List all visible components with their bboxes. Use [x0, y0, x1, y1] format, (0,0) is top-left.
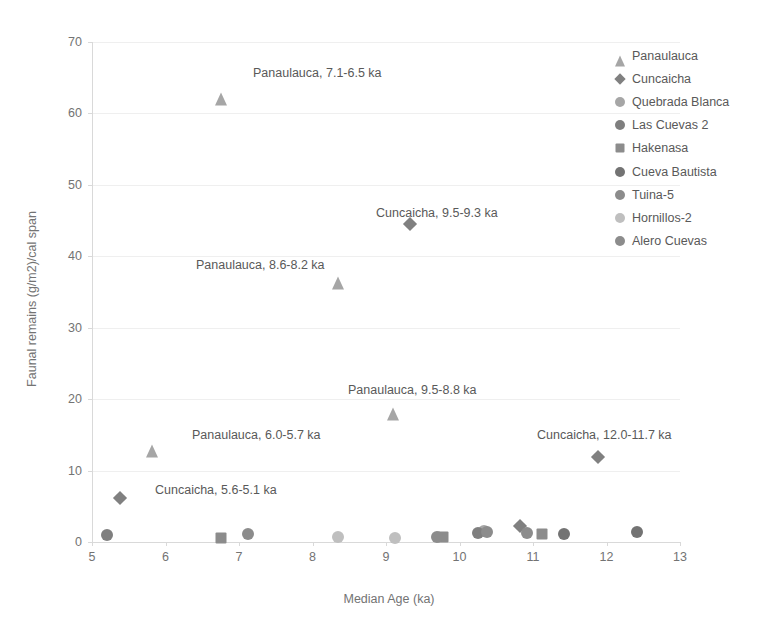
legend-item[interactable]: Las Cuevas 2 [612, 114, 778, 137]
legend-item-label: Cueva Bautista [632, 165, 717, 179]
legend-swatch [612, 71, 628, 87]
legend-swatch [612, 94, 628, 110]
data-point [113, 491, 127, 505]
y-tick-label: 10 [42, 464, 82, 478]
legend-swatch [612, 117, 628, 133]
x-tick-label: 11 [513, 550, 553, 564]
data-point [521, 527, 533, 539]
data-label: Panaulauca, 7.1-6.5 ka [253, 66, 382, 80]
data-point [631, 526, 643, 538]
marker-diamond [614, 73, 625, 84]
data-point [101, 529, 113, 541]
x-tick-label: 7 [219, 550, 259, 564]
marker-circle [615, 190, 625, 200]
data-point [332, 531, 344, 543]
x-tick-label: 12 [587, 550, 627, 564]
legend-item[interactable]: Hakenasa [612, 137, 778, 160]
legend-item-label: Las Cuevas 2 [632, 118, 708, 132]
legend-item-label: Hakenasa [632, 141, 688, 155]
x-tick-label: 8 [293, 550, 333, 564]
chart-legend: PanaulaucaCuncaichaQuebrada BlancaLas Cu… [612, 44, 778, 253]
data-point [387, 407, 399, 420]
legend-item[interactable]: Quebrada Blanca [612, 90, 778, 113]
y-tick-label: 0 [42, 535, 82, 549]
legend-item[interactable]: Alero Cuevas [612, 230, 778, 253]
data-label: Panaulauca, 9.5-8.8 ka [348, 383, 477, 397]
legend-swatch [612, 233, 628, 249]
legend-swatch [612, 140, 628, 156]
legend-item-label: Quebrada Blanca [632, 95, 729, 109]
data-point [146, 445, 158, 458]
y-axis-title: Faunal remains (g/m2)/cal span [25, 149, 39, 449]
data-label: Panaulauca, 6.0-5.7 ka [192, 428, 321, 442]
data-label: Cuncaicha, 9.5-9.3 ka [376, 206, 498, 220]
data-point [242, 528, 254, 540]
data-point [215, 532, 226, 543]
data-point [389, 532, 401, 544]
y-tick-label: 40 [42, 249, 82, 263]
x-axis-line [92, 542, 681, 543]
y-tick-label: 60 [42, 106, 82, 120]
data-point [215, 92, 227, 105]
marker-triangle [615, 56, 625, 67]
plot-area [92, 42, 680, 542]
data-point [591, 450, 605, 464]
legend-item[interactable]: Cueva Bautista [612, 160, 778, 183]
legend-item-label: Tuina-5 [632, 188, 674, 202]
data-point [536, 529, 547, 540]
legend-item-label: Hornillos-2 [632, 211, 692, 225]
x-axis-title: Median Age (ka) [0, 592, 778, 606]
x-tick-label: 9 [366, 550, 406, 564]
marker-square [616, 144, 625, 153]
legend-item-label: Cuncaicha [632, 72, 691, 86]
data-label: Cuncaicha, 5.6-5.1 ka [155, 483, 277, 497]
marker-circle [615, 120, 625, 130]
legend-item[interactable]: Hornillos-2 [612, 206, 778, 229]
data-point [558, 528, 570, 540]
data-point [332, 276, 344, 289]
legend-swatch [612, 187, 628, 203]
y-tick-label: 70 [42, 35, 82, 49]
legend-item-label: Panaulauca [632, 49, 698, 63]
y-tick-label: 30 [42, 321, 82, 335]
data-label: Panaulauca, 8.6-8.2 ka [196, 258, 325, 272]
data-label: Cuncaicha, 12.0-11.7 ka [537, 428, 672, 442]
data-point [431, 531, 443, 543]
legend-swatch [612, 210, 628, 226]
x-tick-label: 13 [660, 550, 700, 564]
y-tick-label: 50 [42, 178, 82, 192]
legend-swatch [612, 48, 628, 64]
legend-swatch [612, 164, 628, 180]
legend-item[interactable]: Cuncaicha [612, 67, 778, 90]
scatter-plot-figure: 0102030405060705678910111213 Panaulauca,… [0, 0, 778, 636]
y-tick-label: 20 [42, 392, 82, 406]
marker-circle [615, 167, 625, 177]
marker-circle [615, 213, 625, 223]
x-tick-label: 10 [440, 550, 480, 564]
legend-item[interactable]: Tuina-5 [612, 183, 778, 206]
legend-item[interactable]: Panaulauca [612, 44, 778, 67]
marker-circle [615, 236, 625, 246]
legend-item-label: Alero Cuevas [632, 234, 707, 248]
x-tick-label: 5 [72, 550, 112, 564]
marker-circle [615, 97, 625, 107]
data-point [481, 526, 493, 538]
x-tick-label: 6 [146, 550, 186, 564]
